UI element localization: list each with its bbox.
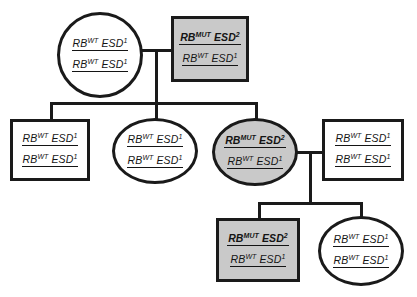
allele-line: RBMUTESD2 xyxy=(224,135,286,148)
genotype-I-2: RBMUTESD2RBWTESD1 xyxy=(179,32,241,66)
genotype-II-4: RBWTESD1RBWTESD1 xyxy=(335,133,392,167)
individual-II-3: RBMUTESD2RBWTESD1 xyxy=(212,118,298,186)
individual-III-2: RBWTESD1RBWTESD1 xyxy=(318,216,404,286)
allele-line: RBWTESD1 xyxy=(182,53,239,66)
genotype-II-1: RBWTESD1RBWTESD1 xyxy=(22,133,79,167)
genotype-I-1: RBWTESD1RBWTESD1 xyxy=(72,38,129,72)
individual-I-1: RBWTESD1RBWTESD1 xyxy=(57,12,143,98)
allele-line: RBWTESD1 xyxy=(72,38,129,51)
allele-line: RBWTESD1 xyxy=(72,59,129,72)
allele-line: RBWTESD1 xyxy=(335,154,392,167)
individual-II-2: RBWTESD1RBWTESD1 xyxy=(112,118,198,184)
genotype-III-2: RBWTESD1RBWTESD1 xyxy=(333,234,390,268)
individual-II-4: RBWTESD1RBWTESD1 xyxy=(322,119,404,181)
sibship-line-III xyxy=(258,202,363,205)
genotype-II-3: RBMUTESD2RBWTESD1 xyxy=(224,135,286,169)
allele-line: RBWTESD1 xyxy=(127,134,184,147)
sibship-line-II xyxy=(50,102,258,105)
descent-line-II xyxy=(309,151,312,205)
individual-I-2: RBMUTESD2RBWTESD1 xyxy=(171,16,249,82)
allele-line: RBWTESD1 xyxy=(335,133,392,146)
allele-line: RBWTESD1 xyxy=(127,155,184,168)
pedigree-diagram: RBWTESD1RBWTESD1 RBMUTESD2RBWTESD1 RBWTE… xyxy=(0,0,417,297)
allele-line: RBMUTESD2 xyxy=(227,233,289,246)
allele-line: RBWTESD1 xyxy=(333,234,390,247)
allele-line: RBMUTESD2 xyxy=(179,32,241,45)
allele-line: RBWTESD1 xyxy=(230,254,287,267)
individual-II-1: RBWTESD1RBWTESD1 xyxy=(10,119,90,181)
allele-line: RBWTESD1 xyxy=(22,133,79,146)
descent-line-I xyxy=(155,49,158,105)
allele-line: RBWTESD1 xyxy=(227,156,284,169)
allele-line: RBWTESD1 xyxy=(333,255,390,268)
allele-line: RBWTESD1 xyxy=(22,154,79,167)
individual-III-1: RBMUTESD2RBWTESD1 xyxy=(216,218,300,282)
genotype-III-1: RBMUTESD2RBWTESD1 xyxy=(227,233,289,267)
genotype-II-2: RBWTESD1RBWTESD1 xyxy=(127,134,184,168)
sibling-drop-III-1 xyxy=(258,202,261,219)
